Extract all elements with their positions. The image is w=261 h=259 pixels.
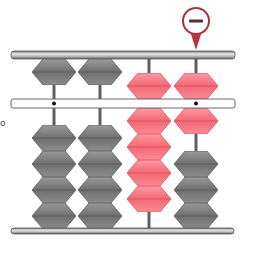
lower-bead: [127, 108, 171, 134]
upper-bead: [78, 59, 122, 85]
lower-bead: [127, 160, 171, 186]
lower-bead: [127, 134, 171, 160]
minus-icon: [189, 20, 203, 23]
bottom-frame-bar: [11, 228, 234, 234]
lower-bead: [174, 177, 218, 203]
lower-bead: [78, 203, 122, 229]
column-2: [78, 59, 122, 229]
lower-bead: [78, 151, 122, 177]
lower-bead: [32, 177, 76, 203]
rods: [54, 56, 196, 231]
abacus-diagram: o: [0, 0, 261, 259]
column-3: [127, 73, 171, 212]
lower-bead: [174, 203, 218, 229]
lower-bead: [78, 177, 122, 203]
lower-bead: [174, 151, 218, 177]
top-frame-bar: [11, 51, 235, 59]
middle-bar: [11, 99, 235, 108]
lower-bead: [78, 125, 122, 151]
unit-dot: [194, 102, 198, 106]
unit-dot: [52, 102, 56, 106]
upper-bead: [127, 73, 171, 99]
lower-bead: [174, 108, 218, 134]
upper-bead: [32, 59, 76, 85]
lower-bead: [32, 203, 76, 229]
upper-bead: [174, 73, 218, 99]
column-4: [174, 73, 218, 229]
lower-bead: [32, 125, 76, 151]
side-label: o: [0, 118, 6, 128]
minus-marker: [183, 8, 209, 50]
lower-bead: [127, 186, 171, 212]
lower-bead: [32, 151, 76, 177]
column-1: [32, 59, 76, 229]
